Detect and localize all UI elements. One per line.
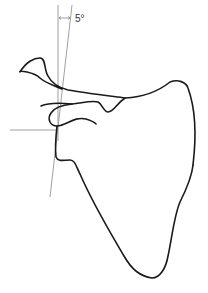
angle-label: 5° [75, 13, 85, 24]
glenoid-lip-outline [49, 104, 96, 126]
scapula-body-outline [56, 126, 193, 278]
angle-indicator [59, 17, 70, 20]
glenoid-axis-line [50, 5, 72, 197]
scapula-diagram: 5° [0, 0, 208, 293]
